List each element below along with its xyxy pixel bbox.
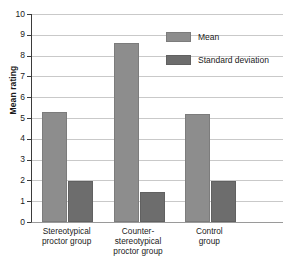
y-tick-label-0: 0 <box>0 218 25 227</box>
y-tick-label-4: 4 <box>0 134 25 143</box>
legend-item-mean: Mean <box>166 31 269 43</box>
legend-label-standard-deviation: Standard deviation <box>198 55 269 65</box>
y-tick-label-1: 1 <box>0 197 25 206</box>
y-tick-label-6: 6 <box>0 93 25 102</box>
y-tick-label-9: 9 <box>0 30 25 39</box>
y-tick-label-3: 3 <box>0 155 25 164</box>
legend-item-standard-deviation: Standard deviation <box>166 54 269 66</box>
y-tick-label-2: 2 <box>0 176 25 185</box>
x-axis-label-2: Controlgroup <box>164 226 254 246</box>
x-axis-label-line: proctor group <box>93 246 183 256</box>
y-tick-label-5: 5 <box>0 114 25 123</box>
standard-deviation-swatch-icon <box>166 55 191 65</box>
y-tick-label-8: 8 <box>0 51 25 60</box>
y-tick-label-7: 7 <box>0 72 25 81</box>
bar-2-mean <box>185 114 210 222</box>
mean-swatch-icon <box>166 32 191 42</box>
x-axis-label-line: group <box>164 236 254 246</box>
legend-label-mean: Mean <box>198 32 219 42</box>
chart-legend: Mean Standard deviation <box>166 31 269 77</box>
bar-0-mean <box>42 112 67 222</box>
bar-1-mean <box>114 43 139 222</box>
x-axis-label-line: Control <box>164 226 254 236</box>
bar-0-standard-deviation <box>68 181 93 222</box>
bar-chart: Mean rating 109876543210 Stereotypicalpr… <box>0 0 283 260</box>
y-tick-label-10: 10 <box>0 10 25 19</box>
bar-1-standard-deviation <box>140 192 165 222</box>
bar-2-standard-deviation <box>211 181 236 222</box>
